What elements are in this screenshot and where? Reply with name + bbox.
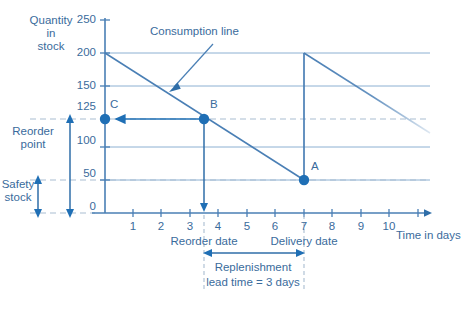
- x-tick-5: 5: [237, 220, 257, 233]
- delivery-date-label: Delivery date: [258, 235, 350, 248]
- y-tick-100: 100: [62, 134, 96, 147]
- point-label-b: B: [210, 98, 218, 111]
- replenishment-label-line-2: lead time = 3 days: [193, 276, 313, 289]
- data-point-b: [199, 114, 209, 124]
- chart-figure: Quantity in stock 250 200 150 125 100 50…: [0, 0, 473, 318]
- replenishment-label-line-1: Replenishment: [193, 261, 313, 274]
- replenishment-lead-time-label: Replenishment lead time = 3 days: [193, 261, 313, 289]
- x-tick-8: 8: [322, 220, 342, 233]
- y-tick-125: 125: [62, 100, 96, 113]
- safety-stock-label-line-2: stock: [0, 191, 36, 204]
- x-tick-2: 2: [151, 220, 171, 233]
- data-point-c: [100, 114, 110, 124]
- consumption-line-label: Consumption line: [150, 25, 260, 38]
- gridlines-horizontal: [105, 53, 430, 180]
- y-tick-200: 200: [62, 46, 96, 59]
- data-point-a: [299, 175, 309, 185]
- consumption-line-leader: [169, 44, 213, 92]
- x-tick-4: 4: [208, 220, 228, 233]
- point-label-a: A: [311, 160, 319, 173]
- x-tick-7: 7: [294, 220, 314, 233]
- reorder-point-label: Reorder point: [2, 125, 64, 151]
- consumption-line-cycle-2: [304, 53, 430, 133]
- safety-stock-label: Safety stock: [0, 178, 36, 204]
- x-tick-9: 9: [351, 220, 371, 233]
- y-tick-50: 50: [62, 167, 96, 180]
- reorder-point-label-line-2: point: [2, 138, 64, 151]
- x-tick-6: 6: [265, 220, 285, 233]
- axis-x: [92, 209, 432, 217]
- x-tick-3: 3: [180, 220, 200, 233]
- x-axis-title: Time in days: [396, 229, 473, 242]
- reorder-date-dropline: [200, 119, 208, 212]
- y-tick-250: 250: [62, 13, 96, 26]
- reorder-date-label: Reorder date: [158, 235, 250, 248]
- y-axis-title-line-2: in: [12, 27, 90, 40]
- y-tick-150: 150: [62, 79, 96, 92]
- lead-time-arrow: [203, 249, 305, 257]
- y-tick-0: 0: [62, 200, 96, 213]
- point-label-c: C: [110, 98, 118, 111]
- reorder-point-label-line-1: Reorder: [2, 125, 64, 138]
- safety-stock-label-line-1: Safety: [0, 178, 36, 191]
- x-tick-1: 1: [123, 220, 143, 233]
